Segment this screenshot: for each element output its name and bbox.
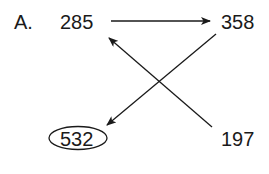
- arrow-358-to-532: [107, 34, 216, 125]
- node-358: 358: [221, 12, 254, 32]
- arrow-197-to-285: [109, 38, 212, 127]
- problem-label: A.: [14, 12, 33, 32]
- node-285: 285: [60, 12, 93, 32]
- node-197: 197: [221, 129, 254, 149]
- number-arrow-diagram: A. 285 358 532 197: [0, 0, 269, 174]
- node-532: 532: [60, 129, 93, 149]
